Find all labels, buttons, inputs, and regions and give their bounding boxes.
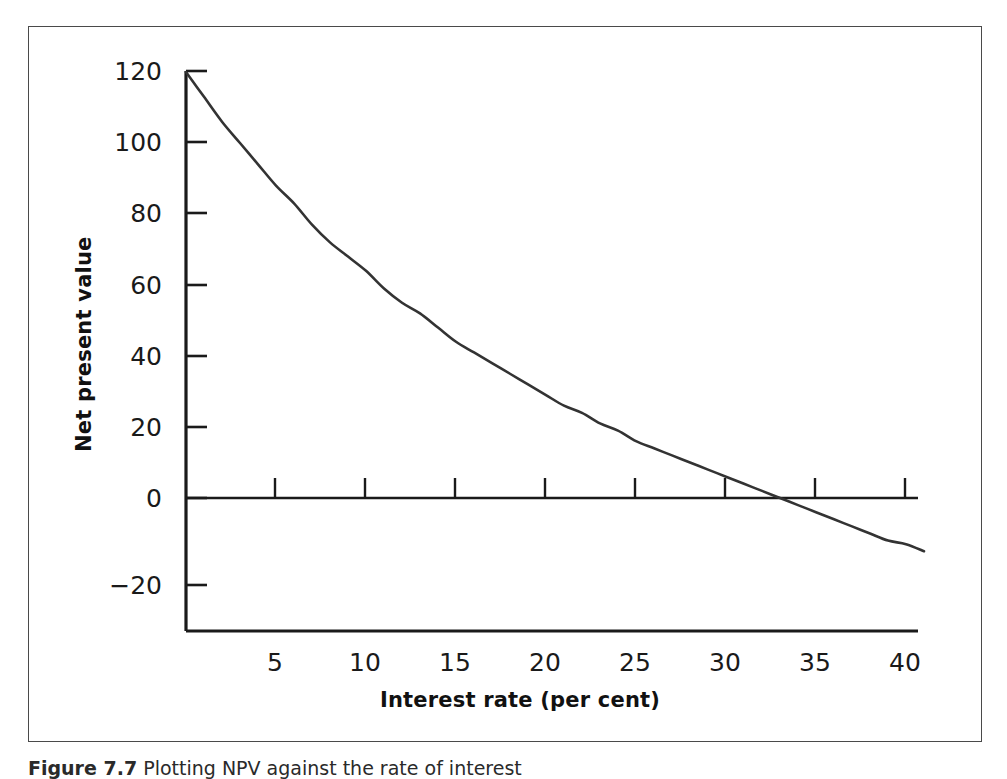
- y-tick-label-120: 120: [86, 57, 162, 86]
- y-tick-label-40: 40: [86, 342, 162, 371]
- x-tick-label-15: 15: [439, 648, 471, 677]
- x-tick-label-10: 10: [349, 648, 381, 677]
- figure-border: [28, 26, 982, 742]
- y-tick-label-100: 100: [86, 128, 162, 157]
- x-tick-label-5: 5: [267, 648, 283, 677]
- x-tick-label-35: 35: [799, 648, 831, 677]
- figure-caption-text: Plotting NPV against the rate of interes…: [143, 757, 522, 779]
- y-tick-label-20: 20: [86, 413, 162, 442]
- y-tick-label-minus20: −20: [86, 571, 162, 600]
- x-tick-label-40: 40: [889, 648, 921, 677]
- x-axis-title: Interest rate (per cent): [380, 688, 660, 712]
- y-tick-label-80: 80: [86, 199, 162, 228]
- y-tick-label-0: 0: [86, 484, 162, 513]
- x-tick-label-20: 20: [529, 648, 561, 677]
- figure-caption: Figure 7.7 Plotting NPV against the rate…: [28, 757, 978, 779]
- figure-caption-label: Figure 7.7: [28, 757, 137, 779]
- y-axis-title: Net present value: [72, 237, 96, 453]
- x-tick-label-25: 25: [619, 648, 651, 677]
- x-tick-label-30: 30: [709, 648, 741, 677]
- y-tick-label-60: 60: [86, 271, 162, 300]
